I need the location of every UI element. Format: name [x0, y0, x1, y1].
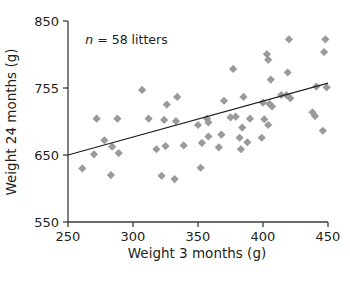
y-tick-label: 650 [34, 148, 59, 163]
annotation-text: n = 58 litters [85, 32, 167, 47]
annotation-variable: n [85, 32, 93, 47]
y-axis-title: Weight 24 months (g) [3, 48, 19, 195]
x-tick-label: 350 [186, 229, 211, 244]
chart-background [0, 0, 350, 282]
x-axis-title: Weight 3 months (g) [128, 245, 266, 261]
x-tick-label: 250 [56, 229, 81, 244]
x-tick-label: 450 [316, 229, 341, 244]
x-tick-label: 400 [251, 229, 276, 244]
y-tick-label: 755 [34, 81, 59, 96]
x-tick-label: 300 [121, 229, 146, 244]
annotation-n-litters: n = 58 litters [85, 32, 167, 47]
y-tick-label: 550 [34, 215, 59, 230]
y-tick-label: 850 [34, 14, 59, 29]
chart-canvas: 250300350400450 550650755850 Weight 3 mo… [0, 0, 350, 282]
scatter-plot-figure: 250300350400450 550650755850 Weight 3 mo… [0, 0, 350, 282]
annotation-value: = 58 litters [93, 32, 167, 47]
